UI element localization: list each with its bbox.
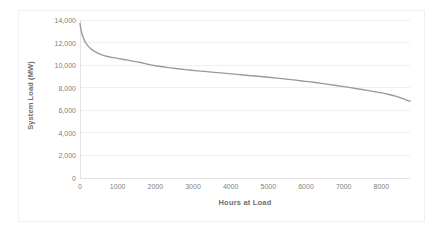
y-tick-label: 0 [38, 175, 76, 182]
x-tick-label: 6000 [298, 183, 314, 190]
axis-lines [80, 20, 410, 178]
line-chart-svg [80, 20, 410, 178]
y-tick-label: 6,000 [38, 107, 76, 114]
x-axis-title: Hours at Load [80, 198, 410, 207]
y-tick-label: 14,000 [38, 17, 76, 24]
x-tick-label: 5000 [261, 183, 277, 190]
x-tick-label: 2000 [148, 183, 164, 190]
y-tick-label: 4,000 [38, 129, 76, 136]
load-duration-curve [80, 23, 410, 101]
x-tick-label: 7000 [336, 183, 352, 190]
y-tick-label: 2,000 [38, 152, 76, 159]
x-tick-label: 3000 [185, 183, 201, 190]
x-tick-label: 0 [78, 183, 82, 190]
y-tick-label: 10,000 [38, 62, 76, 69]
plot-area [80, 20, 410, 178]
y-tick-label: 8,000 [38, 84, 76, 91]
y-axis-tick-labels: 02,0004,0006,0008,00010,00012,00014,000 [38, 0, 76, 231]
y-tick-label: 12,000 [38, 39, 76, 46]
x-tick-label: 4000 [223, 183, 239, 190]
x-axis-tick-labels: 010002000300040005000600070008000 [0, 183, 447, 195]
x-tick-label: 1000 [110, 183, 126, 190]
gridlines [80, 20, 410, 155]
x-tick-label: 8000 [374, 183, 390, 190]
